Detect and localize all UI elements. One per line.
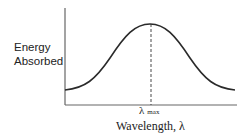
lambda-symbol: λ <box>139 104 144 116</box>
y-axis-label-line2: Absorbed <box>14 54 63 68</box>
max-subscript: max <box>147 108 159 116</box>
y-axis-label-line1: Energy <box>14 40 63 54</box>
x-axis-label: Wavelength, λ <box>116 119 185 134</box>
y-axis-label: Energy Absorbed <box>14 40 63 68</box>
absorption-chart <box>0 0 247 138</box>
absorption-curve <box>65 24 235 90</box>
lambda-max-label: λmax <box>139 104 159 116</box>
